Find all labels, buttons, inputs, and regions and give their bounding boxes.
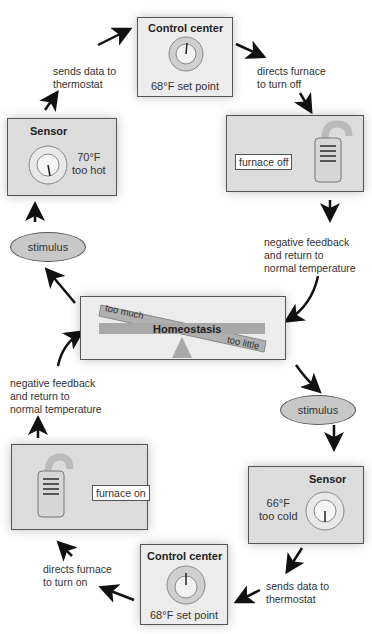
furnace-off-box: furnace off xyxy=(226,115,364,192)
thermostat-dial-icon xyxy=(28,145,68,185)
set-point-label: 68°F set point xyxy=(141,609,227,622)
sensor-bottom-box: Sensor 66°F too cold xyxy=(248,466,364,544)
negative-feedback-label-top: negative feedback and return to normal t… xyxy=(264,236,356,275)
stimulus-ellipse-top: stimulus xyxy=(10,232,86,262)
negative-feedback-label-bottom: negative feedback and return to normal t… xyxy=(10,377,102,416)
directs-furnace-off-label: directs furnace to turn off xyxy=(257,65,326,91)
control-center-title: Control center xyxy=(147,550,222,562)
set-point-label: 68°F set point xyxy=(138,80,232,93)
sends-data-label-bottom: sends data to thermostat xyxy=(266,580,329,606)
furnace-state-tag: furnace on xyxy=(92,485,150,501)
control-center-bottom-box: Control center 68°F set point xyxy=(140,544,228,625)
furnace-state-tag: furnace off xyxy=(235,154,292,170)
control-center-top-box: Control center 68°F set point xyxy=(137,17,233,97)
control-center-title: Control center xyxy=(148,22,223,34)
stimulus-ellipse-bottom: stimulus xyxy=(280,395,356,425)
furnace-on-box: furnace on xyxy=(11,444,148,530)
directs-furnace-on-label: directs furnace to turn on xyxy=(43,563,112,589)
sensor-reading: 66°F too cold xyxy=(259,497,298,523)
thermostat-dial-icon xyxy=(168,36,204,72)
thermostat-dial-icon xyxy=(305,491,345,531)
furnace-icon xyxy=(34,451,76,521)
homeostasis-box: too much Homeostasis too little xyxy=(80,296,286,360)
sensor-title: Sensor xyxy=(309,473,346,485)
sensor-title: Sensor xyxy=(30,125,67,137)
sensor-reading: 70°F too hot xyxy=(72,151,106,177)
sends-data-label-top: sends data to thermostat xyxy=(53,65,116,91)
homeostasis-title: Homeostasis xyxy=(153,323,221,335)
furnace-icon xyxy=(311,120,353,186)
sensor-top-box: Sensor 70°F too hot xyxy=(7,118,117,196)
thermostat-dial-icon xyxy=(166,565,206,605)
